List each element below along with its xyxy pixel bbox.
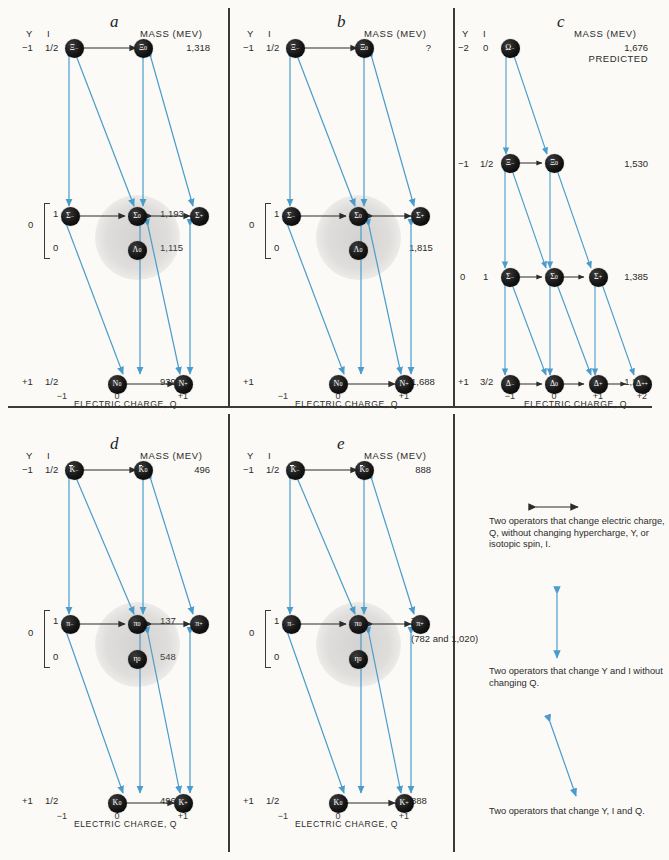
- particle-node[interactable]: K0: [134, 461, 153, 480]
- particle-symbol: K: [290, 466, 296, 474]
- particle-node[interactable]: Ξ0: [134, 39, 153, 58]
- particle-node[interactable]: K−: [65, 461, 84, 480]
- particle-node[interactable]: π+: [411, 615, 430, 634]
- particle-node[interactable]: Σ0: [128, 207, 147, 226]
- panel-b: b Y I MASS (MEV) −1 1/2 ? 0 1 0 ? 1,815 …: [231, 0, 453, 406]
- particle-symbol: Σ: [195, 212, 200, 220]
- particle-symbol: Σ: [416, 212, 421, 220]
- panel-b-arrow-layer: [231, 0, 453, 406]
- vertical-divider-de: [228, 414, 230, 852]
- particle-node[interactable]: N+: [395, 375, 414, 394]
- particle-node[interactable]: Ξ−: [501, 154, 520, 173]
- particle-node[interactable]: K+: [174, 794, 193, 813]
- particle-node[interactable]: N0: [329, 375, 348, 394]
- particle-node[interactable]: η0: [128, 650, 147, 669]
- particle-node[interactable]: π0: [349, 615, 368, 634]
- panel-a-arrow-layer: [0, 0, 228, 406]
- particle-node[interactable]: Σ−: [61, 207, 80, 226]
- particle-symbol: π: [354, 620, 358, 628]
- particle-symbol: Σ: [287, 212, 292, 220]
- particle-node[interactable]: Σ−: [282, 207, 301, 226]
- particle-symbol: Σ: [594, 273, 599, 281]
- particle-node[interactable]: Ξ0: [355, 39, 374, 58]
- particle-node[interactable]: Ξ−: [286, 39, 305, 58]
- particle-node[interactable]: π−: [282, 615, 301, 634]
- legend-panel: Two operators that change electric charg…: [456, 414, 660, 860]
- panel-d-black-arrows: [80, 470, 190, 803]
- particle-node[interactable]: K+: [395, 794, 414, 813]
- particle-node[interactable]: Δ0: [545, 375, 564, 394]
- particle-symbol: Σ: [506, 273, 511, 281]
- particle-node[interactable]: Σ0: [545, 268, 564, 287]
- particle-node[interactable]: Σ+: [190, 207, 209, 226]
- particle-symbol: K: [69, 466, 75, 474]
- panel-d-blue-arrows: [67, 480, 193, 793]
- particle-node[interactable]: Λ0: [128, 241, 147, 260]
- particle-symbol: K: [139, 466, 145, 474]
- particle-node[interactable]: π−: [61, 615, 80, 634]
- vertical-divider-bc: [453, 8, 455, 406]
- panel-d: d Y I MASS (MEV) −1 1/2 496 0 1 0 137 54…: [0, 414, 228, 860]
- panel-e-black-arrows: [301, 470, 411, 803]
- panel-e-arrow-layer: [231, 414, 453, 860]
- particle-node[interactable]: Δ++: [633, 375, 652, 394]
- particle-symbol: K: [360, 466, 366, 474]
- vertical-divider-ab: [228, 8, 230, 406]
- particle-node[interactable]: η0: [349, 650, 368, 669]
- panel-a: a Y I MASS (MEV) −1 1/2 1,318 0 1 0 1,19…: [0, 0, 228, 406]
- particle-node[interactable]: Ξ0: [545, 154, 564, 173]
- particle-node[interactable]: π0: [128, 615, 147, 634]
- panel-c: c Y I MASS (MEV) −2 0 1,676 PREDICTED −1…: [456, 0, 660, 406]
- panel-e: e Y I MASS (MEV) −1 1/2 888 0 1 0 750 (7…: [231, 414, 453, 860]
- particle-node[interactable]: N0: [108, 375, 127, 394]
- particle-symbol: π: [133, 620, 137, 628]
- panel-d-arrow-layer: [0, 414, 228, 860]
- panel-c-black-arrows: [518, 163, 626, 384]
- particle-node[interactable]: π+: [190, 615, 209, 634]
- legend-diagonal-arrow: [550, 722, 576, 796]
- particle-symbol: Σ: [66, 212, 71, 220]
- particle-node[interactable]: Δ−: [501, 375, 520, 394]
- particle-node[interactable]: Λ0: [349, 241, 368, 260]
- particle-symbol: η: [354, 655, 358, 663]
- legend-arrow-layer: [456, 414, 660, 860]
- particle-node[interactable]: Σ+: [589, 268, 608, 287]
- particle-node[interactable]: K−: [286, 461, 305, 480]
- particle-node[interactable]: K0: [355, 461, 374, 480]
- particle-node[interactable]: Δ+: [589, 375, 608, 394]
- panel-c-arrow-layer: [456, 0, 660, 406]
- panel-e-blue-arrows: [288, 480, 414, 793]
- particle-node[interactable]: Ω−: [501, 39, 520, 58]
- particle-node[interactable]: Σ0: [349, 207, 368, 226]
- particle-node[interactable]: Ξ−: [65, 39, 84, 58]
- particle-node[interactable]: Σ+: [411, 207, 430, 226]
- particle-node[interactable]: K0: [108, 794, 127, 813]
- particle-node[interactable]: K0: [329, 794, 348, 813]
- panel-c-blue-arrows: [505, 56, 634, 375]
- particle-node[interactable]: Σ−: [501, 268, 520, 287]
- particle-symbol: η: [133, 655, 137, 663]
- particle-node[interactable]: N+: [174, 375, 193, 394]
